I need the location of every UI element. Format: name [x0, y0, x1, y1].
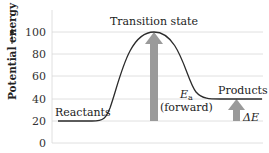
ea-forward-label: (forward) [160, 101, 213, 114]
energy-diagram: 100 80 60 40 20 0 Potential energy Trans… [0, 0, 269, 153]
svg-text:80: 80 [32, 48, 46, 61]
y-tick-labels: 100 80 60 40 20 0 [25, 26, 46, 150]
ea-arrow-shaft [150, 42, 158, 121]
svg-text:40: 40 [32, 93, 46, 106]
ea-arrow-head [145, 32, 163, 44]
svg-text:0: 0 [39, 137, 46, 150]
reactants-label: Reactants [55, 106, 111, 119]
y-axis-label: Potential energy [6, 2, 18, 100]
svg-text:20: 20 [32, 115, 46, 128]
products-label: Products [218, 84, 268, 97]
svg-text:100: 100 [25, 26, 46, 39]
delta-e-label: ΔE [242, 111, 259, 124]
ea-label: Ea [179, 88, 193, 102]
delta-e-arrow-head [228, 99, 245, 110]
delta-e-arrow-shaft [233, 109, 240, 121]
svg-text:60: 60 [32, 70, 46, 83]
transition-state-label: Transition state [110, 15, 198, 28]
chart-svg: 100 80 60 40 20 0 Potential energy Trans… [0, 0, 269, 153]
